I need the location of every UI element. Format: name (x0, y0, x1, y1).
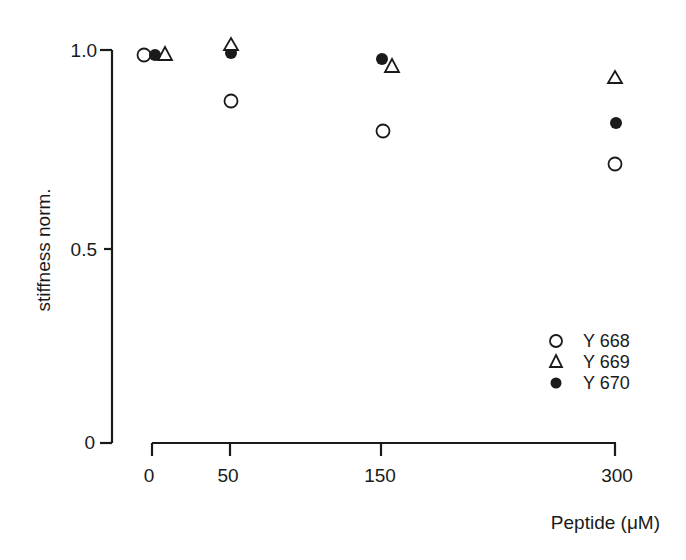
point-y668 (138, 49, 151, 62)
x-tick-label: 0 (144, 465, 155, 486)
point-y668 (225, 95, 238, 108)
y-tick-label: 0 (84, 432, 95, 453)
legend-label: Y 668 (583, 331, 630, 351)
y-tick-label: 0.5 (71, 239, 97, 260)
legend-open-triangle-icon (550, 355, 562, 367)
x-tick-label: 300 (601, 465, 633, 486)
data-points (138, 38, 623, 171)
legend-label: Y 670 (583, 373, 630, 393)
point-y670 (610, 117, 622, 129)
x-tick-label: 50 (217, 465, 238, 486)
legend-filled-circle-icon (551, 378, 562, 389)
point-y669 (224, 38, 238, 50)
y-tick-label: 1.0 (71, 40, 97, 61)
point-y668 (609, 158, 622, 171)
point-y668 (377, 125, 390, 138)
legend: Y 668 Y 669 Y 670 (550, 331, 630, 393)
x-axis-label: Peptide (μM) (551, 512, 660, 533)
x-tick-label: 150 (364, 465, 396, 486)
y-axis-label: stiffness norm. (33, 188, 54, 311)
legend-label: Y 669 (583, 352, 630, 372)
legend-open-circle-icon (550, 335, 562, 347)
point-y670 (376, 53, 388, 65)
scatter-chart: 1.0 0.5 0 stiffness norm. 0 50 150 300 P… (0, 0, 686, 560)
y-axis: 1.0 0.5 0 stiffness norm. (33, 40, 112, 453)
point-y669 (608, 71, 622, 83)
x-axis: 0 50 150 300 Peptide (μM) (144, 443, 660, 533)
